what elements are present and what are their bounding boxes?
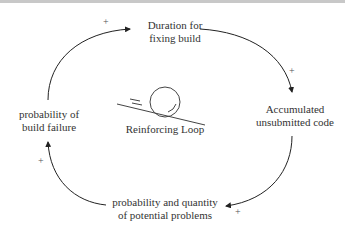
polarity-problems-to-failure: + — [38, 155, 44, 166]
node-problems-line2: of potential problems — [105, 209, 225, 222]
node-failure: probability of build failure — [8, 108, 90, 134]
arrow-accumulated-to-problems — [226, 136, 292, 206]
node-accumulated-line2: unsubmitted code — [245, 116, 345, 129]
polarity-accumulated-to-problems: + — [235, 206, 241, 217]
polarity-duration-to-accumulated: + — [289, 65, 295, 76]
node-duration: Duration for fixing build — [130, 19, 220, 45]
rolling-ball-icon — [117, 87, 205, 125]
node-failure-line1: probability of — [8, 108, 90, 121]
node-problems-line1: probability and quantity — [105, 196, 225, 209]
node-failure-line2: build failure — [8, 121, 90, 134]
node-accumulated-line1: Accumulated — [245, 103, 345, 116]
node-duration-line2: fixing build — [130, 32, 220, 45]
node-problems: probability and quantity of potential pr… — [105, 196, 225, 222]
loop-label: Reinforcing Loop — [125, 123, 205, 136]
node-duration-line1: Duration for — [130, 19, 220, 32]
node-accumulated: Accumulated unsubmitted code — [245, 103, 345, 129]
polarity-failure-to-duration: + — [103, 16, 109, 27]
arrow-problems-to-failure — [48, 142, 106, 205]
arrow-failure-to-duration — [48, 29, 130, 100]
